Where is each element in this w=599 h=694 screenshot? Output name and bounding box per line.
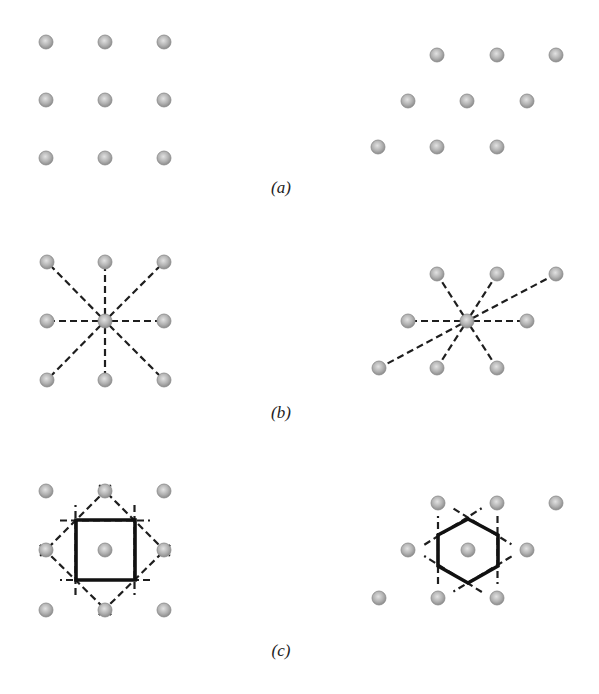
atom (39, 603, 53, 617)
atom (98, 484, 112, 498)
atom (157, 35, 171, 49)
atom (461, 543, 475, 557)
atom (98, 151, 112, 165)
atom (157, 603, 171, 617)
atom (98, 93, 112, 107)
atom (157, 151, 171, 165)
atom (39, 35, 53, 49)
lattice-figure: (a) (b) (c) (0, 0, 599, 694)
atom (39, 93, 53, 107)
atom (157, 543, 171, 557)
dashed-line (470, 280, 493, 316)
dashed-line (470, 326, 493, 362)
atom (372, 591, 386, 605)
dashed-line (441, 280, 464, 316)
atom (430, 361, 444, 375)
panel-b: (b) (40, 255, 563, 422)
atom (430, 48, 444, 62)
atom (430, 267, 444, 281)
dashed-line (385, 324, 462, 365)
atom (490, 496, 504, 510)
atom (157, 255, 171, 269)
dashed-line (52, 267, 101, 317)
atom (430, 140, 444, 154)
atom (549, 48, 563, 62)
atom (40, 373, 54, 387)
atom (39, 543, 53, 557)
atom (98, 255, 112, 269)
atom (401, 543, 415, 557)
atom (98, 543, 112, 557)
atom (520, 314, 534, 328)
atom (98, 35, 112, 49)
dashed-line (441, 326, 464, 362)
atom (520, 543, 534, 557)
atom (40, 255, 54, 269)
panel-a-square-lattice (39, 35, 171, 165)
atom (98, 603, 112, 617)
panel-c-square-lattice (39, 484, 171, 617)
atom (549, 267, 563, 281)
panel-a-label: (a) (271, 178, 291, 197)
panel-c-label: (c) (272, 641, 291, 660)
atom (39, 151, 53, 165)
atom (549, 496, 563, 510)
panel-b-label: (b) (271, 403, 291, 422)
atom (401, 314, 415, 328)
atom (490, 48, 504, 62)
atom (39, 484, 53, 498)
panel-c: (c) (39, 484, 563, 660)
atom (401, 94, 415, 108)
atom (98, 314, 112, 328)
dashed-line (52, 325, 101, 375)
atom (460, 314, 474, 328)
panel-a: (a) (39, 35, 563, 197)
atom (490, 140, 504, 154)
dashed-line (109, 325, 159, 375)
atom (157, 93, 171, 107)
panel-c-hexagonal-lattice (372, 496, 563, 605)
atom (460, 94, 474, 108)
atom (371, 140, 385, 154)
atom (157, 314, 171, 328)
atom (372, 361, 386, 375)
dashed-line (109, 267, 159, 317)
atom (157, 373, 171, 387)
panel-a-hexagonal-lattice (371, 48, 563, 154)
atom (490, 591, 504, 605)
atom (431, 591, 445, 605)
atom (98, 373, 112, 387)
atom (157, 484, 171, 498)
atom (40, 314, 54, 328)
atom (431, 496, 445, 510)
dashed-line (472, 277, 550, 318)
atom (490, 361, 504, 375)
panel-b-hexagonal-lattice (372, 267, 563, 375)
atom (520, 94, 534, 108)
atom (490, 267, 504, 281)
